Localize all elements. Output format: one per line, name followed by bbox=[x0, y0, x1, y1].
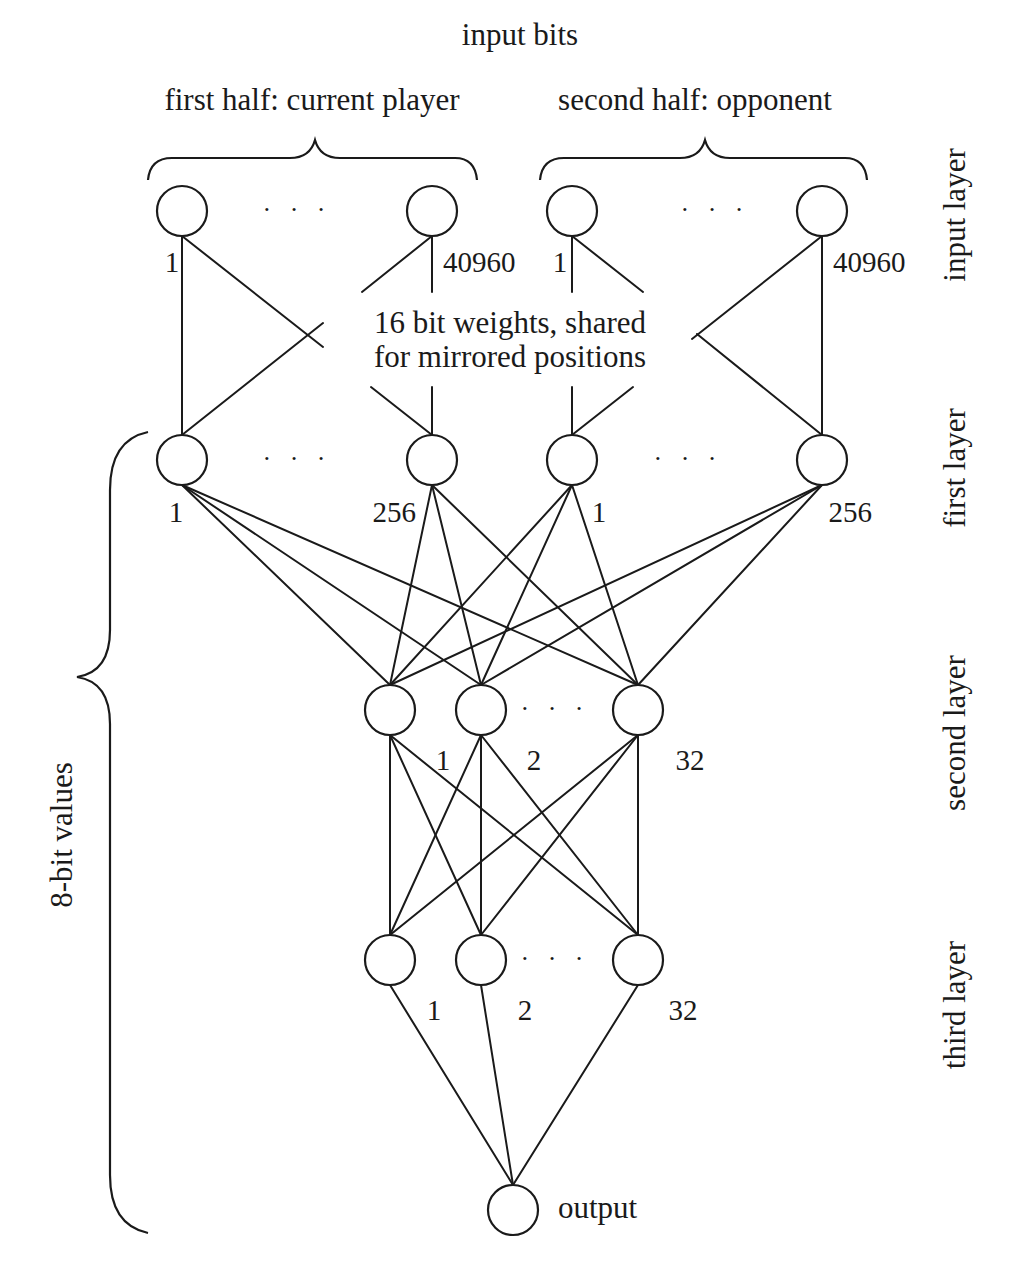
input-node-second-1 bbox=[547, 186, 597, 236]
label-third-32: 32 bbox=[669, 994, 698, 1026]
second-node-1 bbox=[365, 685, 415, 735]
ellipsis-first-b: · · · bbox=[654, 444, 723, 473]
layer-label-input: input layer bbox=[937, 148, 972, 282]
label-first-a-256: 256 bbox=[373, 496, 417, 528]
top-brace-second-half bbox=[540, 140, 867, 180]
input-node-first-40960 bbox=[407, 186, 457, 236]
third-node-2 bbox=[456, 935, 506, 985]
third-node-32 bbox=[613, 935, 663, 985]
second-node-32 bbox=[613, 685, 663, 735]
ellipsis-first-a: · · · bbox=[263, 444, 332, 473]
group-label-first-half: first half: current player bbox=[164, 82, 460, 117]
label-first-b-1: 1 bbox=[592, 496, 607, 528]
label-first-a-1: 1 bbox=[169, 496, 184, 528]
ellipsis-input-first: · · · bbox=[263, 195, 332, 224]
annotation-shared-weights-line1: 16 bit weights, shared bbox=[374, 305, 647, 340]
label-second-1: 1 bbox=[436, 744, 451, 776]
label-second-32: 32 bbox=[676, 744, 705, 776]
annotation-shared-weights-line2: for mirrored positions bbox=[374, 339, 646, 374]
first-layer-nodes bbox=[157, 435, 847, 485]
label-second-2: 2 bbox=[527, 744, 542, 776]
layer-label-second: second layer bbox=[937, 654, 972, 810]
group-label-second-half: second half: opponent bbox=[558, 82, 832, 117]
title-input-bits: input bits bbox=[462, 17, 578, 52]
third-node-1 bbox=[365, 935, 415, 985]
output-node bbox=[488, 1185, 538, 1235]
side-label-8bit-values: 8-bit values bbox=[44, 762, 79, 908]
label-input-second-40960: 40960 bbox=[833, 246, 906, 278]
label-third-1: 1 bbox=[427, 994, 442, 1026]
label-input-first-40960: 40960 bbox=[443, 246, 516, 278]
first-node-a-1 bbox=[157, 435, 207, 485]
ellipsis-third: · · · bbox=[521, 944, 590, 973]
left-brace-8bit bbox=[77, 432, 148, 1233]
top-brace-first-half bbox=[148, 140, 477, 180]
network-diagram: input bits first half: current player se… bbox=[0, 0, 1010, 1265]
first-node-a-256 bbox=[407, 435, 457, 485]
input-node-second-40960 bbox=[797, 186, 847, 236]
label-first-b-256: 256 bbox=[829, 496, 873, 528]
third-layer-nodes bbox=[365, 935, 663, 985]
second-node-2 bbox=[456, 685, 506, 735]
ellipsis-second: · · · bbox=[521, 694, 590, 723]
label-third-2: 2 bbox=[518, 994, 533, 1026]
label-input-first-1: 1 bbox=[165, 246, 180, 278]
output-label: output bbox=[558, 1190, 638, 1225]
edges-second-to-third bbox=[390, 735, 638, 935]
layer-label-third: third layer bbox=[937, 940, 972, 1069]
input-node-first-1 bbox=[157, 186, 207, 236]
label-input-second-1: 1 bbox=[553, 246, 568, 278]
layer-label-first: first layer bbox=[937, 408, 972, 528]
ellipsis-input-second: · · · bbox=[681, 195, 750, 224]
first-node-b-256 bbox=[797, 435, 847, 485]
first-node-b-1 bbox=[547, 435, 597, 485]
edges-first-to-second bbox=[182, 485, 822, 685]
second-layer-nodes bbox=[365, 685, 663, 735]
